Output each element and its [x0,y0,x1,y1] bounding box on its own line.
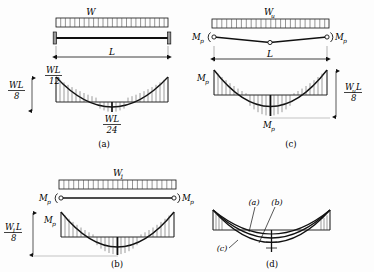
panel-a-support-left [53,32,56,44]
panel-c-caption: (c) [285,139,296,149]
panel-a-mid-moment-denominator: 24 [106,125,118,135]
panel-c-hinge-mid [268,40,272,44]
panel-a-span-label: L [108,47,115,57]
panel-d-caption: (d) [266,259,278,269]
panel-c-hinge-right [325,35,329,39]
panel-c-hinge-left [212,35,216,39]
panel-b-hinge-left [59,196,63,200]
panel-a-total-depth-denominator: 8 [14,91,20,101]
panel-a-end-moment-denominator: 12 [49,76,60,86]
panel-a-mid-moment-numerator: WL [105,114,120,124]
panel-c-free-moment-denominator: 8 [351,93,357,103]
panel-a-total-depth-numerator: WL [9,80,24,90]
panel-a-caption: (a) [98,139,110,149]
panel-c-hinge-left-sub: p [200,37,204,45]
figure-canvas: W [0,0,374,272]
panel-b-hinge-right-sub: p [190,198,194,206]
panel-b-end-moment-sub: p [52,220,56,228]
panel-c-end-moment-sub: p [205,78,209,86]
panel-b-free-moment-denominator: 8 [11,233,17,243]
panel-c-span-label: L [266,49,273,59]
panel-c-hinge-right-sub: p [343,37,347,45]
panel-a-support-right [168,32,171,44]
panel-c-free-moment-numerator-tail: L [355,82,362,92]
panel-c-mid-moment-sub: p [271,125,275,133]
panel-b-hinge-right [172,196,176,200]
panel-d-curve-a-label: (a) [248,198,259,207]
panel-d-curve-b-label: (b) [271,198,282,207]
panel-b-load-subscript: 1 [120,173,124,180]
panel-d-curve-c-label: (c) [217,244,228,253]
panel-b-hinge-left-sub: p [47,198,51,206]
panel-b-caption: (b) [111,259,123,269]
panel-b-free-moment-numerator-tail: L [15,222,22,232]
panel-a-load-label: W [86,7,96,17]
panel-a-end-moment-numerator: WL [46,65,61,75]
panel-c-load-subscript: u [271,12,275,19]
